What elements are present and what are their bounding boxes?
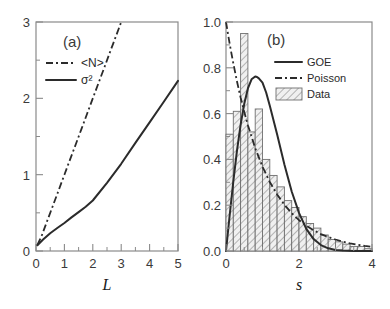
panel-b-ytick-5: 1.0 [203,15,221,30]
panel-a-legend-label-meanN: <N> [81,56,104,70]
panel-b: 0.0 0.2 0.4 0.6 0.8 1.0 0 2 4 s (b) GOE … [195,0,390,309]
panel-b-ytick-3: 0.6 [203,107,221,122]
panel-a: 0 1 2 3 0 1 2 3 4 5 L (a) <N> σ [0,0,195,309]
panel-b-legend: GOE Poisson Data [275,56,346,100]
hist-bar [241,33,248,251]
hist-bar [255,109,262,251]
panel-a-xaxis-title: L [102,276,112,293]
panel-a-ytick-0: 0 [23,244,30,259]
panel-a-xtick-2: 2 [89,256,96,271]
panel-a-series-sigma2 [37,81,178,245]
panel-b-svg: 0.0 0.2 0.4 0.6 0.8 1.0 0 2 4 s (b) GOE … [195,0,390,309]
hist-bar [270,175,277,251]
panel-a-plot-frame [36,22,178,251]
panel-b-ytick-0: 0.0 [203,244,221,259]
panel-b-legend-label-poisson: Poisson [307,72,346,84]
panel-a-legend: <N> σ² [46,56,104,87]
panel-a-xtick-5: 5 [174,256,181,271]
panel-a-ytick-1: 1 [23,168,30,183]
figure-container: 0 1 2 3 0 1 2 3 4 5 L (a) <N> σ [0,0,390,309]
panel-b-label: (b) [267,31,285,48]
panel-a-label: (a) [63,33,81,50]
panel-b-xtick-0: 0 [222,256,229,271]
panel-b-legend-label-goe: GOE [307,56,331,68]
panel-b-ytick-1: 0.2 [203,198,221,213]
panel-b-ytick-4: 0.8 [203,61,221,76]
panel-a-xtick-1: 1 [61,256,68,271]
panel-a-xtick-0: 0 [32,256,39,271]
panel-a-xtick-3: 3 [118,256,125,271]
panel-a-legend-label-sigma2: σ² [81,73,92,87]
panel-b-ytick-2: 0.4 [203,152,221,167]
panel-b-legend-label-data: Data [307,88,331,100]
panel-a-svg: 0 1 2 3 0 1 2 3 4 5 L (a) <N> σ [0,0,195,309]
panel-a-xtick-4: 4 [146,256,153,271]
panel-b-legend-swatch-data [276,88,302,100]
panel-b-xaxis-title: s [296,276,302,293]
panel-b-xtick-1: 2 [295,256,302,271]
panel-a-ytick-3: 3 [23,15,30,30]
hist-bar [248,132,255,251]
panel-a-y-ticks [36,22,43,251]
panel-a-x-ticks [36,244,178,251]
panel-b-histogram [226,33,372,251]
panel-b-xtick-2: 4 [368,256,375,271]
panel-a-ytick-2: 2 [23,91,30,106]
